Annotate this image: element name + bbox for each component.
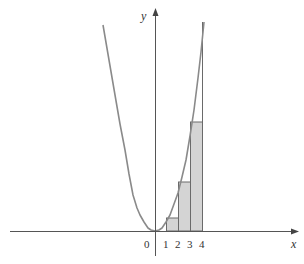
tick-label-3: 3 xyxy=(187,238,193,250)
parabola-riemann-chart: y x 0 1 2 3 4 xyxy=(0,0,304,264)
tick-label-4: 4 xyxy=(199,238,205,250)
rectangle-1 xyxy=(167,218,179,231)
origin-label: 0 xyxy=(144,238,150,250)
y-axis-arrow-icon xyxy=(153,8,159,16)
tick-label-2: 2 xyxy=(175,238,181,250)
x-axis-label: x xyxy=(290,237,297,251)
tick-label-1: 1 xyxy=(163,238,169,250)
x-axis xyxy=(10,229,299,235)
rectangle-3 xyxy=(191,122,203,231)
x-axis-arrow-icon xyxy=(291,229,299,235)
y-axis xyxy=(153,8,159,256)
y-axis-label: y xyxy=(140,9,147,23)
riemann-rectangles xyxy=(167,22,203,231)
rectangle-2 xyxy=(179,182,191,231)
